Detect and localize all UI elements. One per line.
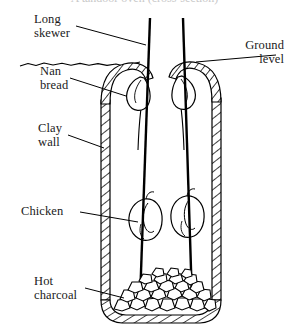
label-clay-wall-line1: Clay — [38, 122, 62, 136]
label-ground-level-line2: level — [245, 53, 284, 67]
label-clay-wall-line2: wall — [38, 136, 62, 150]
label-nan-bread-line2: bread — [40, 79, 68, 93]
label-clay-wall: Clay wall — [38, 122, 62, 149]
label-chicken-line1: Chicken — [21, 205, 63, 219]
label-ground-level: Ground level — [245, 39, 284, 66]
label-nan-bread-line1: Nan — [40, 65, 68, 79]
label-ground-level-line1: Ground — [245, 39, 284, 53]
label-long-skewer: Long skewer — [34, 13, 70, 40]
skewer-group — [140, 18, 192, 300]
label-chicken: Chicken — [21, 205, 63, 219]
figure-canvas: A tandoor oven (cross-section) — [0, 0, 289, 336]
chicken-group — [129, 189, 204, 240]
label-hot-charcoal-line2: charcoal — [34, 289, 77, 303]
hot-charcoal — [114, 268, 216, 311]
label-long-skewer-line2: skewer — [34, 27, 70, 41]
label-hot-charcoal: Hot charcoal — [34, 275, 77, 302]
label-long-skewer-line1: Long — [34, 13, 70, 27]
label-hot-charcoal-line1: Hot — [34, 275, 77, 289]
leader-long-skewer — [76, 26, 146, 45]
leader-nan-bread — [70, 78, 126, 96]
label-nan-bread: Nan bread — [40, 65, 68, 92]
leader-clay-wall — [68, 135, 104, 148]
